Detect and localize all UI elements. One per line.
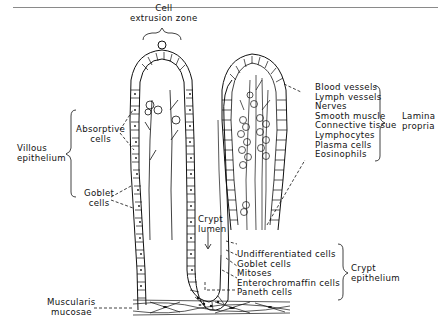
crypt-item-paneth-cells: Paneth cells	[237, 288, 340, 298]
label-line: mucosae	[47, 307, 96, 317]
label-line: epithelium	[17, 153, 66, 163]
extrusion-zone-brace	[143, 28, 181, 40]
label-line: Cell	[130, 3, 198, 13]
label-line: cells	[76, 134, 125, 144]
villous-epithelium-brace	[66, 110, 76, 197]
label-line: Lamina	[402, 111, 435, 121]
label-line: Crypt	[198, 214, 226, 224]
lamina-item-eosinophils: Eosinophils	[315, 150, 397, 160]
label-line: propria	[402, 121, 435, 131]
label-line: Goblet	[84, 188, 114, 198]
label-line: lumen	[198, 224, 226, 234]
muscularis-mucosae-label: Muscularis mucosae	[47, 297, 96, 317]
cell-extrusion-zone-label: Cell extrusion zone	[130, 3, 198, 23]
label-line: Absorptive	[76, 124, 125, 134]
label-line: epithelium	[351, 273, 400, 283]
absorptive-cells-label: Absorptive cells	[76, 124, 125, 144]
label-line: Muscularis	[47, 297, 96, 307]
lamina-propria-items: Blood vessels Lymph vessels Nerves Smoot…	[315, 83, 397, 160]
label-line: extrusion zone	[130, 13, 198, 23]
lamina-propria-label: Lamina propria	[402, 111, 435, 131]
crypt-epithelium-label: Crypt epithelium	[351, 263, 400, 283]
crypt-lumen-label: Crypt lumen	[198, 214, 226, 234]
label-line: cells	[84, 198, 114, 208]
goblet-cells-villus-label: Goblet cells	[84, 188, 114, 208]
label-line: Villous	[17, 143, 66, 153]
label-line: Crypt	[351, 263, 400, 273]
villous-epithelium-label: Villous epithelium	[17, 143, 66, 163]
muscularis-mucosae-layer	[133, 300, 290, 315]
crypt-epithelium-items: Undifferentiated cells Goblet cells Mito…	[237, 250, 340, 298]
